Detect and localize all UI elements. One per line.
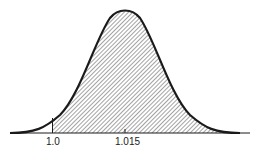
normal-curve-chart: [0, 0, 260, 152]
tick-label-mean: 1.015: [115, 136, 140, 147]
shaded-area: [10, 11, 240, 134]
tick-label-1-0: 1.0: [46, 136, 60, 147]
